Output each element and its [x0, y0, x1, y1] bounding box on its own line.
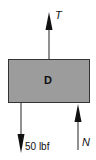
weight-label: 50 lbf	[25, 141, 49, 152]
tension-arrow	[46, 12, 53, 59]
body-label: D	[44, 74, 52, 86]
normal-label: N	[82, 136, 90, 148]
tension-label: T	[55, 9, 62, 21]
normal-arrow	[75, 104, 82, 150]
weight-arrow	[18, 103, 25, 153]
free-body-diagram: T D 50 lbf N	[0, 0, 96, 160]
